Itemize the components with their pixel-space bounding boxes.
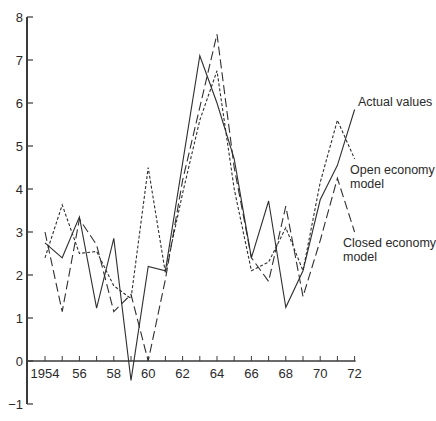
x-tick-label: 58 xyxy=(107,366,121,381)
y-tick-label: 2 xyxy=(16,268,23,283)
label-open-economy-line2: model xyxy=(350,177,384,191)
y-tick-label: 1 xyxy=(16,311,23,326)
y-tick-label: 3 xyxy=(16,225,23,240)
axes: −10123456781954565860626466687072 xyxy=(8,10,362,412)
x-tick-label: 62 xyxy=(175,366,189,381)
series-labels: Actual values Open economy model Closed … xyxy=(343,95,436,264)
y-tick-label: 8 xyxy=(16,10,23,25)
series-group xyxy=(45,34,355,380)
x-tick-label: 66 xyxy=(244,366,258,381)
line-chart: −10123456781954565860626466687072 Actual… xyxy=(0,0,436,421)
x-tick-label: 64 xyxy=(210,366,224,381)
y-tick-label: 4 xyxy=(16,182,23,197)
series-actual-values xyxy=(45,56,355,381)
y-tick-label: −1 xyxy=(8,397,23,412)
y-tick-label: 7 xyxy=(16,53,23,68)
label-open-economy-line1: Open economy xyxy=(350,163,436,177)
y-tick-label: 6 xyxy=(16,96,23,111)
x-tick-label: 1954 xyxy=(31,366,60,381)
y-tick-label: 0 xyxy=(16,354,23,369)
y-tick-label: 5 xyxy=(16,139,23,154)
x-tick-label: 60 xyxy=(141,366,155,381)
label-closed-economy-line2: model xyxy=(343,250,377,264)
label-actual-values: Actual values xyxy=(358,95,432,109)
series-closed-economy-model xyxy=(45,34,355,361)
x-tick-label: 56 xyxy=(72,366,86,381)
x-tick-label: 70 xyxy=(313,366,327,381)
x-tick-label: 68 xyxy=(279,366,293,381)
label-closed-economy-line1: Closed economy xyxy=(343,236,436,250)
x-tick-label: 72 xyxy=(347,366,361,381)
